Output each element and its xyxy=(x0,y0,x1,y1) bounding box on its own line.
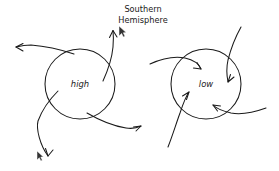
title-line-1: Southern xyxy=(124,4,161,14)
high-outflow-arrow-bottom-left xyxy=(37,91,58,156)
low-inflow-arrow-right xyxy=(227,27,241,82)
low-pressure-label: low xyxy=(199,79,213,89)
southern-hemisphere-diagram: Southern Hemisphere xyxy=(0,0,279,171)
high-pressure-label: high xyxy=(71,79,89,89)
mouse-pointer-secondary-icon xyxy=(37,151,43,161)
title-line-2: Hemisphere xyxy=(118,15,167,25)
low-inflow-arrow-bottom-right xyxy=(213,105,266,114)
mouse-pointer-icon xyxy=(119,26,126,37)
low-pressure-cell: low xyxy=(150,27,266,147)
high-outflow-arrow-top xyxy=(103,31,117,82)
diagram-canvas: Southern Hemisphere xyxy=(0,0,279,171)
high-pressure-cell: high xyxy=(16,31,141,157)
low-inflow-arrow-left xyxy=(168,92,189,147)
